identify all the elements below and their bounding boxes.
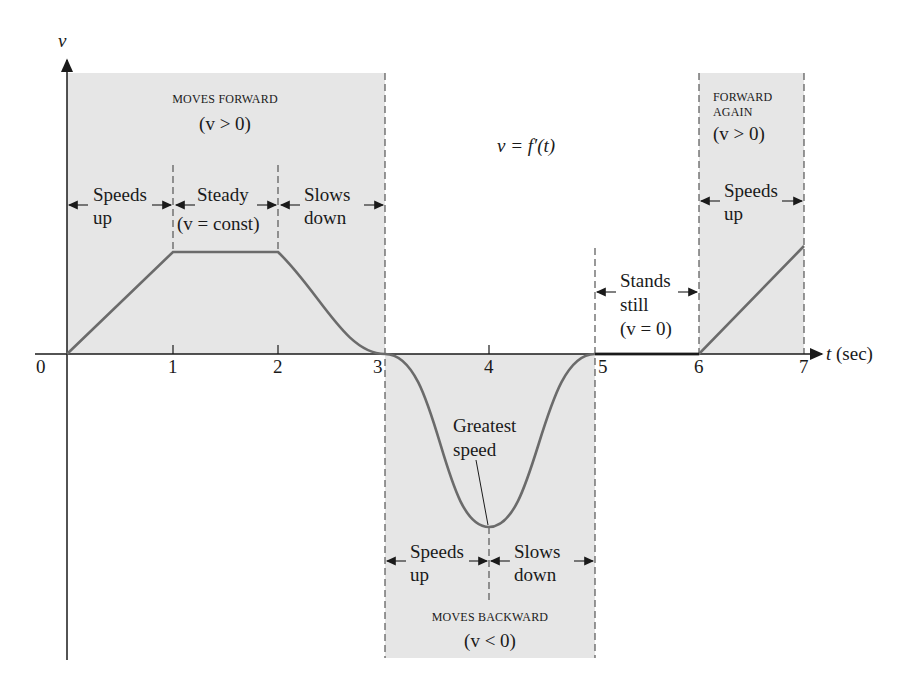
moves-backward-cond: (v < 0) bbox=[435, 630, 545, 652]
moves-backward-title: MOVES BACKWARD bbox=[405, 610, 575, 625]
forward-again-title-2: AGAIN bbox=[713, 105, 753, 120]
y-axis-label: v bbox=[58, 30, 66, 52]
seg4-line1: Speeds bbox=[410, 541, 464, 563]
seg6-line2: still bbox=[620, 294, 649, 316]
tick-4: 4 bbox=[484, 356, 494, 378]
seg2-line1: Steady bbox=[197, 184, 249, 206]
seg5-line1: Slows bbox=[514, 541, 560, 563]
seg3-line1: Slows bbox=[304, 184, 350, 206]
seg4-line2: up bbox=[410, 564, 429, 586]
greatest-speed-line2: speed bbox=[453, 439, 496, 461]
tick-0: 0 bbox=[36, 356, 46, 378]
moves-forward-cond: (v > 0) bbox=[170, 113, 280, 135]
seg1-line2: up bbox=[93, 207, 112, 229]
tick-6: 6 bbox=[694, 356, 704, 378]
tick-3: 3 bbox=[373, 356, 383, 378]
tick-7: 7 bbox=[799, 356, 809, 378]
forward-again-cond: (v > 0) bbox=[713, 123, 765, 145]
x-axis-label: t (sec) bbox=[826, 343, 873, 365]
tick-5: 5 bbox=[598, 356, 608, 378]
seg6-line1: Stands bbox=[620, 270, 671, 292]
tick-1: 1 bbox=[168, 356, 178, 378]
tick-2: 2 bbox=[273, 356, 283, 378]
seg7-line1: Speeds bbox=[724, 180, 778, 202]
equation-label: v = f′(t) bbox=[497, 135, 555, 157]
forward-again-title-1: FORWARD bbox=[713, 90, 772, 105]
x-axis-var: t bbox=[826, 343, 831, 364]
moves-forward-title: MOVES FORWARD bbox=[145, 92, 305, 107]
seg6-line3: (v = 0) bbox=[620, 318, 672, 340]
x-axis-unit: (sec) bbox=[836, 343, 873, 364]
seg5-line2: down bbox=[514, 564, 556, 586]
seg7-line2: up bbox=[724, 203, 743, 225]
seg3-line2: down bbox=[304, 207, 346, 229]
seg1-line1: Speeds bbox=[93, 184, 147, 206]
greatest-speed-line1: Greatest bbox=[453, 415, 516, 437]
seg2-line2: (v = const) bbox=[177, 213, 259, 235]
